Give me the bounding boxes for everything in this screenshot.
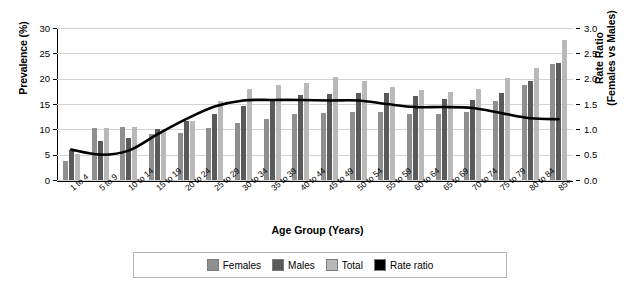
x-axis-title: Age Group (Years) bbox=[0, 224, 635, 236]
legend-item[interactable]: Females bbox=[207, 259, 261, 271]
y-axis-right-tick-label: 0.5 bbox=[584, 149, 610, 160]
legend-label: Total bbox=[342, 260, 363, 271]
y-axis-right-tick-mark bbox=[576, 28, 580, 29]
y-axis-right-title: Rate Ratio (Females vs Males) bbox=[593, 0, 617, 143]
legend-swatch-icon bbox=[207, 259, 219, 271]
y-axis-left-tick-label: 25 bbox=[24, 48, 50, 59]
y-axis-left-title: Prevalence (%) bbox=[17, 0, 29, 143]
legend-label: Males bbox=[288, 260, 315, 271]
y-axis-right-tick-mark bbox=[576, 155, 580, 156]
y-axis-right-tick-mark bbox=[576, 104, 580, 105]
legend-item[interactable]: Males bbox=[272, 259, 315, 271]
legend-item[interactable]: Total bbox=[326, 259, 363, 271]
rate-ratio-line bbox=[57, 28, 573, 180]
y-axis-right-tick-label: 3.0 bbox=[584, 23, 610, 34]
y-axis-left-tick-label: 0 bbox=[24, 175, 50, 186]
plot-area bbox=[57, 28, 573, 180]
y-axis-left-tick-label: 10 bbox=[24, 124, 50, 135]
legend-label: Rate ratio bbox=[390, 260, 433, 271]
y-axis-right-title-line2: (Females vs Males) bbox=[605, 0, 617, 143]
y-axis-right-tick-label: 1.0 bbox=[584, 124, 610, 135]
y-axis-right-tick-label: 2.5 bbox=[584, 48, 610, 59]
legend-label: Females bbox=[223, 260, 261, 271]
y-axis-right-tick-label: 0.0 bbox=[584, 175, 610, 186]
y-axis-right-tick-label: 1.5 bbox=[584, 99, 610, 110]
y-axis-left-tick-label: 30 bbox=[24, 23, 50, 34]
y-axis-right-tick-mark bbox=[576, 79, 580, 80]
legend-item[interactable]: Rate ratio bbox=[374, 259, 433, 271]
rate-ratio-line-path bbox=[71, 100, 558, 155]
legend-swatch-icon bbox=[272, 259, 284, 271]
y-axis-right-tick-label: 2.0 bbox=[584, 73, 610, 84]
y-axis-left-tick-label: 20 bbox=[24, 73, 50, 84]
chart-root: Prevalence (%) Rate Ratio (Females vs Ma… bbox=[0, 0, 635, 290]
y-axis-right-tick-mark bbox=[576, 180, 580, 181]
y-axis-right-title-line1: Rate Ratio bbox=[593, 0, 605, 143]
y-axis-right-tick-mark bbox=[576, 53, 580, 54]
chart-legend: FemalesMalesTotalRate ratio bbox=[133, 252, 507, 278]
y-axis-left-tick-label: 15 bbox=[24, 99, 50, 110]
legend-swatch-icon bbox=[326, 259, 338, 271]
y-axis-left-tick-label: 5 bbox=[24, 149, 50, 160]
x-axis-ticks: 1 to 45 to 910 to 1415 to 1920 to 2425 t… bbox=[57, 182, 573, 226]
legend-swatch-icon bbox=[374, 259, 386, 271]
y-axis-right-tick-mark bbox=[576, 129, 580, 130]
